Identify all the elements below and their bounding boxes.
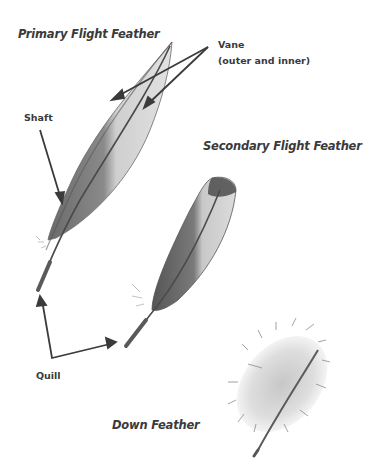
annotation-arrows (37, 47, 208, 358)
primary-feather-title: Primary Flight Feather (18, 27, 160, 41)
quill-label: Quill (36, 370, 61, 381)
vane-sublabel: (outer and inner) (218, 55, 310, 66)
feather-diagram: Primary Flight Feather Secondary Flight … (0, 0, 374, 476)
feather-illustrations (0, 0, 374, 476)
secondary-feather (126, 177, 236, 346)
secondary-feather-title: Secondary Flight Feather (203, 139, 362, 153)
primary-feather (36, 42, 172, 290)
shaft-label: Shaft (24, 112, 53, 123)
vane-label: Vane (218, 39, 244, 50)
down-feather-title: Down Feather (112, 418, 200, 432)
down-feather (218, 318, 346, 456)
